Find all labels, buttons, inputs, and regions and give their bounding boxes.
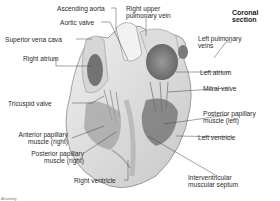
image-credit: Anatomy	[1, 196, 17, 201]
heart-coronal-section-diagram: Coronal section Ascending aorta Aortic v…	[0, 0, 280, 201]
label-superior-vena-cava: Superior vena cava	[5, 36, 62, 43]
label-right-upper-pulmonary-vein: Right upper pulmonary vein	[126, 5, 171, 20]
label-posterior-papillary-muscle-left: Posterior papillary muscle (left)	[203, 110, 256, 125]
label-mitral-valve: Mitral valve	[203, 85, 236, 92]
label-tricuspid-valve: Tricuspid valve	[8, 100, 52, 107]
label-anterior-papillary-muscle-right: Anterior papillary muscle (right)	[8, 131, 68, 146]
diagram-title: Coronal section	[232, 9, 280, 23]
label-left-pulmonary-veins: Left pulmonary veins	[198, 35, 242, 50]
label-right-atrium: Right atrium	[23, 55, 59, 62]
label-posterior-papillary-muscle-right: Posterior papillary muscle (right)	[24, 150, 84, 165]
label-left-atrium: Left atrium	[200, 69, 231, 76]
label-interventricular-muscular-septum: Interventricular muscular septum	[188, 174, 238, 189]
label-right-ventricle: Right ventricle	[74, 177, 116, 184]
label-ascending-aorta: Ascending aorta	[57, 5, 105, 12]
label-left-ventricle: Left ventricle	[198, 134, 235, 141]
label-aortic-valve: Aortic valve	[60, 19, 94, 26]
